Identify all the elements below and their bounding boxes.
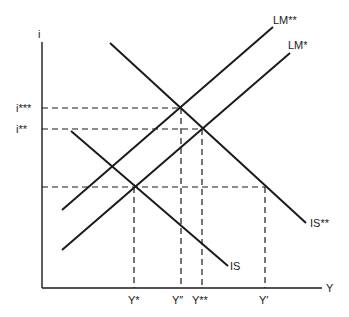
lm-double-star-label: LM** bbox=[273, 14, 298, 26]
is-double-star-curve bbox=[110, 43, 306, 223]
y-star-label: Y* bbox=[128, 294, 140, 306]
y-double-prime-label: Y″ bbox=[172, 294, 183, 306]
x-axis-label: Y bbox=[326, 282, 334, 294]
i-triple-star-label: i*** bbox=[16, 102, 32, 114]
y-prime-label: Y′ bbox=[259, 294, 268, 306]
y-axis-label: i bbox=[38, 28, 40, 40]
y-double-star-label: Y** bbox=[192, 294, 209, 306]
is-curve bbox=[71, 131, 228, 266]
is-double-star-label: IS** bbox=[310, 217, 330, 229]
is-lm-diagram: i Y LM** LM* IS IS** i*** i** Y* Y″ Y** … bbox=[0, 0, 349, 317]
is-label: IS bbox=[230, 260, 240, 272]
lm-star-label: LM* bbox=[288, 39, 308, 51]
i-double-star-label: i** bbox=[16, 123, 28, 135]
lm-double-star-curve bbox=[62, 27, 273, 210]
